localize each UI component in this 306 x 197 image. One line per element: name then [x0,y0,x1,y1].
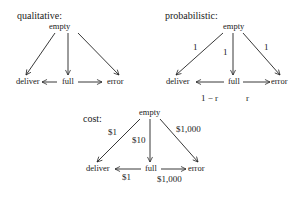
edge-empty-error [243,33,280,75]
panel-qualitative: qualitative: empty deliver full error [16,10,124,86]
node-full: full [228,76,240,86]
panel-title: cost: [83,113,102,124]
node-empty: empty [223,21,245,31]
panel-title: qualitative: [17,10,62,21]
node-empty: empty [139,107,161,117]
panel-cost: cost: empty deliver full error $1 $10 $1… [83,107,205,184]
edge-empty-error [78,33,119,75]
node-deliver: deliver [86,163,110,173]
edge-label: 1 − r [201,93,218,103]
node-deliver: deliver [16,76,40,86]
edge-label: r [246,93,249,103]
diagram-canvas: qualitative: empty deliver full error pr… [0,0,306,197]
node-deliver: deliver [166,76,190,86]
edge-label: $1 [108,127,117,137]
panel-probabilistic: probabilistic: empty deliver full error … [165,10,288,103]
node-error: error [107,76,124,86]
edge-empty-deliver [176,33,223,75]
edge-label: 1 [223,47,228,57]
edge-label: $1,000 [157,174,182,184]
edge-label: $1,000 [176,124,201,134]
diagram-svg: qualitative: empty deliver full error pr… [0,0,306,197]
node-error: error [188,163,205,173]
edge-empty-deliver [26,33,55,75]
edge-label: 1 [264,42,269,52]
panel-title: probabilistic: [165,10,218,21]
node-error: error [271,76,288,86]
node-full: full [145,163,157,173]
edge-label: 1 [193,42,198,52]
node-empty: empty [49,21,71,31]
edge-label: $1 [122,172,131,182]
node-full: full [62,76,74,86]
edge-label: $10 [132,135,146,145]
